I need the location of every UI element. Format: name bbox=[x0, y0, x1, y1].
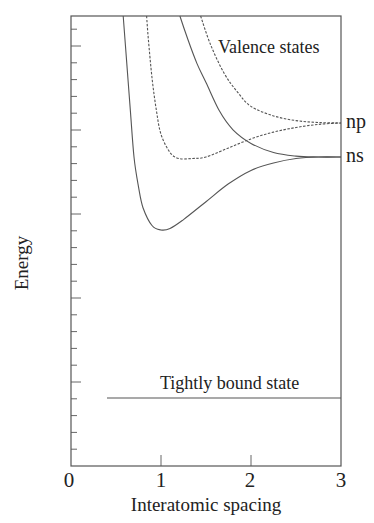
x-tick-label-0: 0 bbox=[64, 468, 75, 493]
y-axis-label: Energy bbox=[11, 236, 33, 291]
energy-level-chart bbox=[0, 0, 374, 523]
x-axis-ticks bbox=[161, 455, 251, 466]
np-level-label: np bbox=[346, 110, 366, 133]
x-tick-label-1: 1 bbox=[156, 468, 167, 493]
x-tick-label-3: 3 bbox=[336, 468, 347, 493]
tightly-bound-state-label: Tightly bound state bbox=[160, 373, 299, 394]
energy-curves bbox=[107, 16, 341, 398]
y-axis-ticks bbox=[71, 29, 81, 449]
valence-states-label: Valence states bbox=[218, 37, 319, 58]
np-antibonding-curve bbox=[201, 16, 341, 123]
x-axis-label: Interatomic spacing bbox=[131, 494, 281, 516]
ns-level-label: ns bbox=[346, 144, 364, 167]
x-tick-label-2: 2 bbox=[245, 468, 256, 493]
